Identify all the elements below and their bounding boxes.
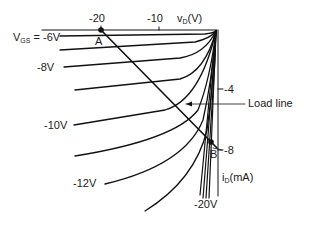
x-tick-label-10: -10 — [147, 13, 163, 24]
vgs-10-label: -10V — [44, 120, 67, 131]
x-axis-label: vD(V) — [177, 13, 202, 27]
y-tick-label-4: -4 — [224, 84, 234, 95]
load-line-label: Load line — [248, 98, 293, 109]
load-line-arrow-icon — [186, 102, 192, 107]
y-axis-unit: (mA) — [230, 171, 254, 183]
vgs-12-label: -12V — [73, 178, 96, 189]
vgs-20-label: -20V — [194, 199, 217, 210]
curve-vgs-6 — [60, 31, 216, 36]
vgs-6-value: = -6V — [30, 31, 60, 43]
vgs-8-label: -8V — [37, 62, 54, 73]
load-line — [101, 30, 217, 148]
curve-vgs-11 — [75, 31, 216, 156]
y-axis-label: iD(mA) — [222, 172, 253, 186]
point-b-marker — [208, 139, 214, 145]
vgs-subscript: GS — [20, 37, 30, 44]
point-a-marker — [98, 27, 104, 33]
x-tick-label-20: -20 — [89, 13, 105, 24]
y-tick-label-8: -8 — [224, 145, 234, 156]
point-a-label: A — [95, 36, 102, 47]
vgs-6-label: VGS = -6V — [13, 32, 60, 46]
x-axis-unit: (V) — [188, 12, 203, 24]
point-b-label: B — [210, 149, 217, 160]
